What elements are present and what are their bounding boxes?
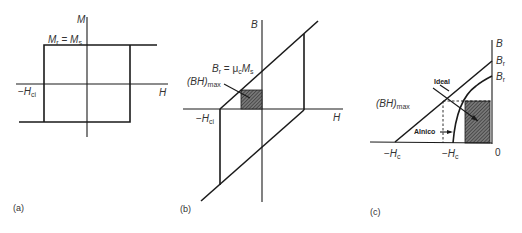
- bhmax-area: [465, 101, 490, 143]
- panel-b: B H Br = μcMs (BH)max −Hci (b): [180, 19, 343, 214]
- bhmax-label: (BH)max: [187, 76, 221, 88]
- bhmax-area: [241, 90, 262, 109]
- hc-alnico-label: −Hc: [442, 148, 459, 160]
- hysteresis-figure: M H Mr = Ms −Hci (a) B H Br = μcMs (BH)m…: [0, 0, 522, 233]
- m-axis-label: M: [77, 14, 86, 25]
- ideal-pointer: [440, 85, 449, 91]
- coercivity-label: −Hci: [196, 113, 215, 125]
- panel-a: M H Mr = Ms −Hci (a): [13, 14, 168, 213]
- alnico-label: Alnico: [414, 128, 435, 135]
- h-axis-label: H: [333, 112, 341, 123]
- alnico-arrowhead: [447, 130, 453, 134]
- caption-a: (a): [13, 203, 24, 213]
- h-axis-label: H: [159, 87, 167, 98]
- panel-c: B Br Br Ideal Alnico (BH)max −Hc −Hc 0 (…: [370, 38, 506, 217]
- hc-ideal-label: −Hc: [384, 148, 401, 160]
- coercivity-label: −Hci: [18, 86, 37, 98]
- lower-loop-line: [201, 110, 304, 201]
- remanence-label: Mr = Ms: [48, 34, 82, 46]
- origin-label: 0: [495, 147, 501, 158]
- b-axis-label: B: [251, 19, 258, 30]
- caption-b: (b): [180, 204, 191, 214]
- br-alnico-label: Br: [496, 71, 506, 83]
- remanence-label: Br = μcMs: [212, 63, 254, 75]
- bhmax-label: (BH)max: [376, 98, 410, 110]
- b-axis-label: B: [496, 38, 503, 49]
- ideal-label: Ideal: [434, 78, 450, 85]
- caption-c: (c): [370, 207, 381, 217]
- br-ideal-label: Br: [496, 55, 506, 67]
